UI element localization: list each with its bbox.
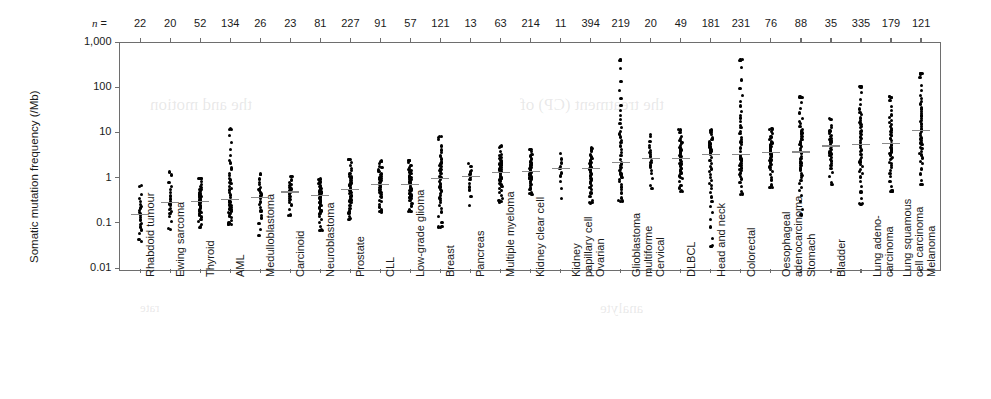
x-axis-tick-top — [590, 38, 591, 42]
data-point — [919, 172, 922, 175]
data-point — [711, 237, 714, 240]
data-point — [620, 191, 623, 194]
data-point — [859, 116, 862, 119]
x-axis-category-label: Head and neck — [716, 203, 728, 277]
data-point — [649, 184, 652, 187]
data-point — [170, 173, 173, 176]
data-point — [711, 211, 714, 214]
y-axis-tick — [115, 132, 119, 133]
data-point — [440, 160, 443, 163]
category-label-line: multiforme — [643, 212, 655, 276]
data-point — [710, 179, 713, 182]
category-label-line: Prostate — [355, 236, 367, 277]
x-axis-category-label: Cervical — [655, 237, 667, 277]
data-point — [801, 117, 804, 120]
y-axis-tick-label: 0.01 — [90, 261, 111, 273]
data-point — [801, 208, 804, 211]
data-point — [619, 114, 622, 117]
data-point — [259, 228, 262, 231]
data-point — [619, 97, 622, 100]
data-point — [769, 135, 772, 138]
sample-size-value: 121 — [901, 17, 941, 29]
data-point — [409, 164, 412, 167]
median-marker — [732, 154, 750, 155]
x-axis-tick — [500, 269, 501, 273]
data-point — [588, 195, 591, 198]
data-point — [740, 136, 743, 139]
data-point — [407, 159, 410, 162]
x-axis-category-label: Medulloblastoma — [265, 193, 277, 276]
data-point — [738, 181, 741, 184]
data-point — [798, 111, 801, 114]
median-marker — [552, 168, 570, 169]
category-label-line: Kidney clear cell — [535, 196, 547, 276]
data-point — [620, 139, 623, 142]
data-point — [709, 176, 712, 179]
data-point — [858, 111, 861, 114]
category-label-line: Rhabdoid tumour — [145, 192, 157, 276]
data-point — [799, 179, 802, 182]
data-point — [738, 87, 741, 90]
somatic-mutation-frequency-figure: Somatic mutation frequency (/Mb) n = 1,0… — [0, 0, 991, 399]
median-marker — [371, 184, 389, 185]
data-point — [740, 78, 743, 81]
data-point-outlier — [619, 58, 622, 61]
category-label-line: Bladder — [836, 239, 848, 277]
x-axis-category-label: Lung squamouscell carcinoma — [902, 198, 925, 276]
median-marker — [612, 162, 630, 163]
data-point — [918, 76, 921, 79]
x-axis-tick-top — [680, 38, 681, 42]
data-point — [620, 196, 623, 199]
data-point — [170, 185, 173, 188]
category-label-line: Pancreas — [475, 230, 487, 276]
category-label-line: papillary cell — [583, 216, 595, 277]
x-axis-category-label: Melanoma — [926, 225, 938, 276]
x-axis-tick — [860, 269, 861, 273]
data-point — [620, 148, 623, 151]
data-point — [140, 228, 143, 231]
category-label-line: Breast — [445, 245, 457, 277]
data-point — [710, 156, 713, 159]
data-point — [919, 160, 922, 163]
data-point — [499, 145, 502, 148]
data-point — [318, 229, 321, 232]
median-marker — [882, 143, 900, 144]
data-point — [228, 128, 231, 131]
data-point — [919, 146, 922, 149]
data-point — [348, 207, 351, 210]
y-axis-tick — [115, 268, 119, 269]
data-point — [259, 200, 262, 203]
x-axis-tick — [410, 269, 411, 273]
category-label-line: CLL — [385, 256, 397, 276]
data-point — [258, 177, 261, 180]
x-axis-tick — [170, 269, 171, 273]
data-point — [889, 146, 892, 149]
category-label-line: DLBCL — [686, 241, 698, 276]
category-label-line: Colorectal — [746, 227, 758, 277]
data-point — [739, 140, 742, 143]
x-axis-tick-top — [140, 38, 141, 42]
data-point — [200, 183, 203, 186]
data-point — [290, 178, 293, 181]
data-point — [438, 204, 441, 207]
median-marker — [221, 199, 239, 200]
data-point — [228, 134, 231, 137]
median-marker — [762, 152, 780, 153]
median-marker — [161, 202, 179, 203]
median-marker — [311, 195, 329, 196]
data-point — [798, 189, 801, 192]
data-point — [799, 107, 802, 110]
data-point — [709, 129, 712, 132]
median-marker — [792, 151, 810, 152]
category-label-line: carcinoma — [883, 215, 895, 277]
data-point-outlier — [859, 86, 862, 89]
data-point-outlier — [799, 96, 802, 99]
data-point — [828, 129, 831, 132]
data-point — [167, 227, 170, 230]
y-axis-tick — [115, 222, 119, 223]
x-axis-category-label: Rhabdoid tumour — [145, 192, 157, 276]
data-point — [137, 238, 140, 241]
x-axis-category-label: Stomach — [806, 233, 818, 276]
y-axis-tick-label: 0.1 — [96, 216, 111, 228]
median-marker — [251, 197, 269, 198]
